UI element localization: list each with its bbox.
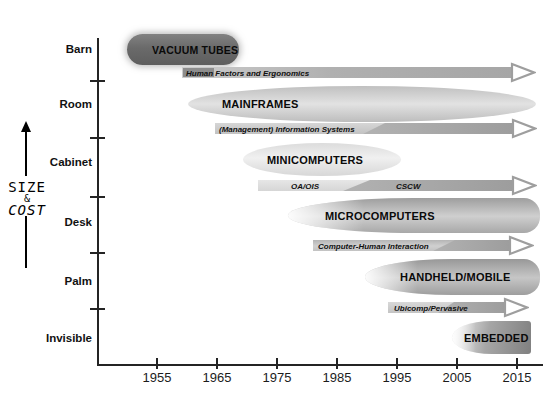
x-axis-tick bbox=[276, 358, 278, 369]
band-computer-human-interaction: Computer-Human Interaction bbox=[313, 240, 510, 251]
band-cscw-label: CSCW bbox=[396, 181, 420, 190]
arrowhead-icon bbox=[503, 297, 529, 318]
x-axis-line bbox=[97, 364, 543, 366]
x-tick-label-1985: 1985 bbox=[315, 370, 359, 385]
y-axis-line bbox=[97, 38, 99, 366]
x-tick-label-2015: 2015 bbox=[495, 370, 539, 385]
band-computer-human-interaction-label: Computer-Human Interaction bbox=[318, 241, 429, 250]
era-embedded-label: EMBEDDED bbox=[464, 332, 529, 344]
x-axis-tick bbox=[396, 358, 398, 369]
category-label-room: Room bbox=[18, 98, 92, 110]
band-ubicomp-pervasive-label: Ubicomp/Pervasive bbox=[394, 303, 468, 312]
era-vacuum-tubes-label: VACUUM TUBES bbox=[152, 44, 238, 56]
era-handheld-mobile: HANDHELD/MOBILE bbox=[365, 259, 540, 295]
arrowhead-icon bbox=[508, 235, 534, 256]
band-ubicomp-pervasive: Ubicomp/Pervasive bbox=[388, 302, 505, 313]
band-dark-segment-cscw bbox=[343, 180, 513, 191]
band-human-factors-ergonomics-label: Human Factors and Ergonomics bbox=[186, 68, 309, 77]
era-embedded: EMBEDDED bbox=[452, 321, 531, 354]
band-management-information-systems-label: (Management) Information Systems bbox=[219, 124, 355, 133]
x-axis-tick bbox=[156, 358, 158, 369]
size-cost-arrow-shaft bbox=[25, 131, 27, 176]
era-mainframes-label: MAINFRAMES bbox=[222, 98, 299, 110]
era-mainframes: MAINFRAMES bbox=[188, 86, 536, 122]
y-axis-tick bbox=[90, 137, 105, 139]
category-label-palm: Palm bbox=[18, 275, 92, 287]
x-tick-label-2005: 2005 bbox=[435, 370, 479, 385]
y-axis-tick bbox=[90, 308, 105, 310]
x-tick-label-1955: 1955 bbox=[135, 370, 179, 385]
band-dark-segment bbox=[363, 123, 513, 134]
x-tick-label-1995: 1995 bbox=[375, 370, 419, 385]
y-axis-label-cost: COST bbox=[2, 202, 52, 218]
size-cost-lower-line bbox=[25, 216, 27, 268]
band-dark-segment bbox=[433, 240, 510, 251]
era-minicomputers-label: MINICOMPUTERS bbox=[267, 154, 363, 166]
band-oa-ois-label: OA/OIS bbox=[291, 181, 319, 190]
x-axis-tick bbox=[516, 358, 518, 369]
era-microcomputers: MICROCOMPUTERS bbox=[288, 198, 540, 233]
y-axis-tick bbox=[90, 196, 105, 198]
x-axis-tick bbox=[336, 358, 338, 369]
category-label-cabinet: Cabinet bbox=[18, 156, 92, 168]
era-microcomputers-label: MICROCOMPUTERS bbox=[325, 210, 435, 222]
category-label-invisible: Invisible bbox=[18, 332, 92, 344]
band-oa-ois-cscw: OA/OIS CSCW bbox=[258, 180, 513, 191]
x-axis-tick bbox=[216, 358, 218, 369]
x-axis-tick bbox=[456, 358, 458, 369]
category-label-barn: Barn bbox=[18, 43, 92, 55]
computing-eras-timeline-figure: 1955 1965 1975 1985 1995 2005 2015 Barn … bbox=[0, 0, 548, 394]
y-axis-tick bbox=[90, 252, 105, 254]
era-minicomputers: MINICOMPUTERS bbox=[243, 143, 401, 176]
band-human-factors-ergonomics: Human Factors and Ergonomics bbox=[182, 67, 512, 78]
arrowhead-icon bbox=[510, 62, 536, 83]
era-handheld-mobile-label: HANDHELD/MOBILE bbox=[400, 271, 511, 283]
band-management-information-systems: (Management) Information Systems bbox=[215, 123, 513, 134]
arrowhead-icon bbox=[511, 175, 537, 196]
y-axis-tick bbox=[90, 80, 105, 82]
arrowhead-icon bbox=[511, 118, 537, 139]
x-tick-label-1965: 1965 bbox=[195, 370, 239, 385]
x-tick-label-1975: 1975 bbox=[255, 370, 299, 385]
era-vacuum-tubes: VACUUM TUBES bbox=[127, 34, 239, 65]
